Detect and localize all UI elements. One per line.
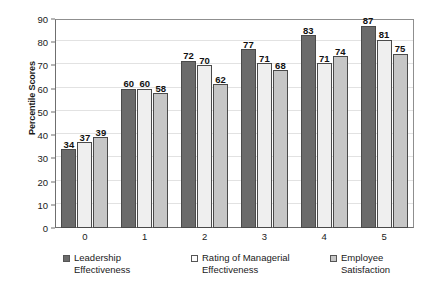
bar-value-label: 81 — [379, 30, 390, 40]
legend-item[interactable]: Employee Satisfaction — [330, 252, 390, 275]
bar: 62 — [213, 84, 228, 228]
x-tick-label: 5 — [381, 231, 386, 242]
bar-group: 777168 — [235, 19, 295, 228]
bar-value-label: 71 — [319, 54, 330, 64]
bar-group: 727062 — [175, 19, 235, 228]
y-tick-label: 50 — [37, 106, 48, 117]
bar: 75 — [393, 54, 408, 228]
y-tick-label: 0 — [43, 223, 48, 234]
bar-group: 878175 — [354, 19, 414, 228]
legend-item[interactable]: Leadership Effectiveness — [63, 252, 130, 275]
bar: 71 — [257, 63, 272, 228]
bar: 68 — [273, 70, 288, 228]
bar-value-label: 34 — [64, 140, 75, 150]
y-tick-label: 40 — [37, 130, 48, 141]
y-tick-label: 70 — [37, 60, 48, 71]
legend-label: Rating of Managerial Effectiveness — [202, 252, 290, 275]
legend-label: Leadership Effectiveness — [74, 252, 130, 275]
bar: 77 — [241, 49, 256, 228]
bar-value-label: 60 — [123, 79, 134, 89]
bar-group: 606058 — [115, 19, 175, 228]
y-tick-label: 30 — [37, 153, 48, 164]
x-axis: 012345 — [55, 231, 414, 247]
bar-value-label: 75 — [395, 44, 406, 54]
bar-value-label: 62 — [215, 75, 226, 85]
bar: 39 — [93, 137, 108, 228]
bar-value-label: 70 — [199, 56, 210, 66]
bar-group: 343739 — [55, 19, 115, 228]
legend-swatch-icon — [63, 255, 70, 262]
x-tick-label: 0 — [82, 231, 87, 242]
bar: 74 — [333, 56, 348, 228]
bar: 87 — [361, 26, 376, 228]
bar: 37 — [77, 142, 92, 228]
bar-chart: Percentile Scores 0102030405060708090 34… — [0, 0, 429, 284]
bar-value-label: 87 — [363, 16, 374, 26]
legend-item[interactable]: Rating of Managerial Effectiveness — [191, 252, 290, 275]
bar-value-label: 58 — [155, 84, 166, 94]
legend-label: Employee Satisfaction — [341, 252, 390, 275]
bar-group: 837174 — [294, 19, 354, 228]
bar: 81 — [377, 40, 392, 228]
x-tick-label: 2 — [202, 231, 207, 242]
y-tick-label: 10 — [37, 199, 48, 210]
bar: 71 — [317, 63, 332, 228]
bar-value-label: 77 — [243, 40, 254, 50]
bar-value-label: 71 — [259, 54, 270, 64]
bar-value-label: 74 — [335, 47, 346, 57]
bar-value-label: 37 — [80, 133, 91, 143]
bar: 34 — [61, 149, 76, 228]
bar-value-label: 72 — [183, 51, 194, 61]
y-tick-label: 60 — [37, 83, 48, 94]
y-tick-label: 80 — [37, 37, 48, 48]
bar: 70 — [197, 65, 212, 228]
y-tick-label: 90 — [37, 14, 48, 25]
chart-legend: Leadership EffectivenessRating of Manage… — [55, 252, 429, 282]
y-axis: 0102030405060708090 — [0, 0, 55, 284]
bar-value-label: 60 — [139, 79, 150, 89]
bar-value-label: 68 — [275, 61, 286, 71]
bar: 72 — [181, 61, 196, 228]
legend-swatch-icon — [330, 255, 337, 262]
bar: 58 — [153, 93, 168, 228]
bar-value-label: 83 — [303, 26, 314, 36]
x-tick-label: 3 — [262, 231, 267, 242]
bar-value-label: 39 — [96, 128, 107, 138]
x-tick-label: 4 — [322, 231, 327, 242]
legend-swatch-icon — [191, 255, 198, 262]
bar: 60 — [137, 89, 152, 228]
bar: 60 — [121, 89, 136, 228]
bar: 83 — [301, 35, 316, 228]
bars-layer: 343739606058727062777168837174878175 — [55, 19, 414, 228]
x-tick-label: 1 — [142, 231, 147, 242]
y-tick-label: 20 — [37, 176, 48, 187]
